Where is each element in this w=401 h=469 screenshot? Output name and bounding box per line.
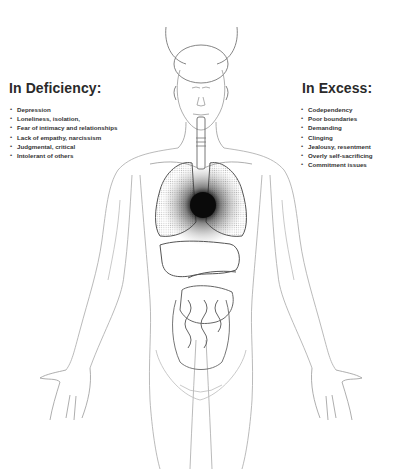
list-item: Codependency	[300, 105, 373, 114]
deficiency-title: In Deficiency:	[9, 80, 117, 96]
digestive-organs	[160, 241, 239, 369]
pelvis	[156, 350, 246, 400]
list-item: Clinging	[300, 133, 373, 142]
crown-halo	[166, 27, 238, 83]
list-item: Loneliness, isolation,	[9, 114, 117, 123]
neck	[178, 117, 224, 169]
list-item: Poor boundaries	[300, 114, 373, 123]
list-item: Depression	[9, 105, 117, 114]
hands	[40, 368, 362, 420]
head	[174, 70, 228, 130]
list-item: Intolerant of others	[9, 151, 117, 160]
excess-list: Codependency Poor boundaries Demanding C…	[300, 105, 373, 169]
list-item: Judgmental, critical	[9, 142, 117, 151]
excess-title: In Excess:	[302, 80, 373, 96]
list-item: Demanding	[300, 123, 373, 132]
list-item: Commitment issues	[300, 160, 373, 169]
heart-icon	[190, 192, 216, 218]
deficiency-panel: In Deficiency: Depression Loneliness, is…	[9, 80, 117, 160]
excess-panel: In Excess: Codependency Poor boundaries …	[300, 80, 373, 169]
anatomy-figure	[0, 0, 401, 469]
list-item: Overly self-sacrificing	[300, 151, 373, 160]
list-item: Lack of empathy, narcissism	[9, 133, 117, 142]
deficiency-list: Depression Loneliness, isolation, Fear o…	[9, 105, 117, 160]
list-item: Jealousy, resentment	[300, 142, 373, 151]
list-item: Fear of intimacy and relationships	[9, 123, 117, 132]
